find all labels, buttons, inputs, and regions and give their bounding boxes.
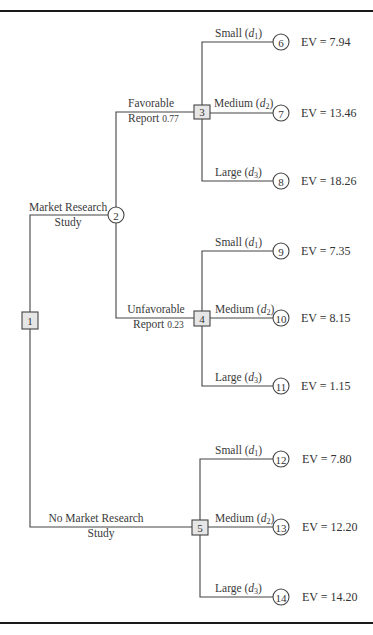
- node-number: 4: [199, 313, 205, 325]
- decision-label-large-11: Large (d3): [215, 371, 262, 385]
- node-number: 12: [276, 454, 287, 466]
- decision-label-small-12: Small (d1): [215, 444, 262, 458]
- chance-node-11: 11: [273, 378, 289, 394]
- edge-5-to-12: [200, 459, 273, 520]
- branch-label-line1: Market Research: [29, 201, 107, 213]
- svg-text:Report 0.23: Report 0.23: [133, 318, 184, 331]
- node-number: 1: [27, 315, 33, 327]
- ev-node-11: EV = 1.15: [301, 379, 351, 393]
- svg-text:Medium (d2): Medium (d2): [215, 512, 274, 526]
- node-number: 6: [278, 37, 284, 49]
- node-number: 9: [278, 246, 284, 258]
- decision-node-1: 1: [22, 312, 38, 329]
- decision-label-medium-10: Medium (d2): [215, 303, 274, 317]
- chance-node-2: 2: [108, 207, 124, 223]
- node-number: 8: [278, 176, 284, 188]
- branch-label-line2: Study: [55, 216, 82, 229]
- report-word: Report: [133, 318, 165, 331]
- ev-node-14: EV = 14.20: [302, 590, 358, 604]
- chance-node-8: 8: [273, 173, 289, 189]
- svg-text:Large (d3): Large (d3): [215, 582, 262, 596]
- branch-label-no-market-research: No Market Research Study: [48, 512, 143, 540]
- decision-label-small-6: Small (d1): [215, 27, 262, 41]
- chance-node-7: 7: [273, 105, 289, 121]
- ev-node-9: EV = 7.35: [301, 244, 351, 258]
- chance-node-9: 9: [273, 243, 289, 259]
- ev-node-12: EV = 7.80: [302, 452, 352, 466]
- node-number: 14: [276, 592, 288, 604]
- node-number: 2: [113, 210, 119, 222]
- node-number: 11: [276, 381, 287, 393]
- branch-label-line2: Study: [88, 527, 115, 540]
- svg-text:Small (d1): Small (d1): [215, 444, 262, 458]
- decision-label-large-8: Large (d3): [215, 166, 262, 180]
- svg-text:Small (d1): Small (d1): [215, 27, 262, 41]
- decision-label-medium-7: Medium (d2): [214, 97, 273, 111]
- chance-node-6: 6: [273, 34, 289, 50]
- svg-text:Small (d1): Small (d1): [215, 236, 262, 250]
- branch-label-unfavorable: Unfavorable Report 0.23: [127, 303, 184, 331]
- probability-value: 0.23: [167, 320, 184, 330]
- chance-node-10: 10: [273, 310, 289, 326]
- node-number: 13: [276, 522, 288, 534]
- edge-2-to-3: [116, 112, 194, 207]
- node-number: 7: [278, 108, 284, 120]
- node-number: 5: [197, 522, 203, 534]
- decision-label-medium-13: Medium (d2): [215, 512, 274, 526]
- svg-text:Medium (d2): Medium (d2): [215, 303, 274, 317]
- edge-1-to-2: [30, 215, 108, 312]
- chance-node-13: 13: [273, 519, 289, 535]
- branch-label-favorable: Favorable Report 0.77: [128, 97, 179, 125]
- chance-node-14: 14: [273, 589, 289, 605]
- branch-label-line1: No Market Research: [48, 512, 143, 524]
- ev-node-6: EV = 7.94: [301, 35, 351, 49]
- branch-label-line1: Unfavorable: [127, 303, 184, 315]
- ev-node-13: EV = 12.20: [302, 520, 358, 534]
- ev-node-7: EV = 13.46: [301, 106, 357, 120]
- svg-text:Medium (d2): Medium (d2): [214, 97, 273, 111]
- svg-text:Large (d3): Large (d3): [215, 371, 262, 385]
- branch-label-line1: Favorable: [128, 97, 174, 109]
- decision-label-large-14: Large (d3): [215, 582, 262, 596]
- node-number: 3: [199, 106, 205, 118]
- ev-node-10: EV = 8.15: [301, 311, 351, 325]
- edge-4-to-9: [202, 251, 273, 311]
- ev-node-8: EV = 18.26: [301, 174, 357, 188]
- svg-text:Report 0.77: Report 0.77: [128, 112, 179, 125]
- chance-node-12: 12: [273, 451, 289, 467]
- probability-value: 0.77: [162, 114, 179, 124]
- report-word: Report: [128, 112, 160, 125]
- decision-label-small-9: Small (d1): [215, 236, 262, 250]
- decision-node-4: 4: [194, 311, 210, 326]
- svg-text:Large (d3): Large (d3): [215, 166, 262, 180]
- edge-3-to-6: [202, 42, 273, 105]
- decision-node-5: 5: [192, 520, 208, 535]
- decision-node-3: 3: [194, 105, 210, 119]
- decision-tree-diagram: 1 3 4 5 2 6 7 8 9 10 11 12: [0, 0, 373, 635]
- node-number: 10: [276, 313, 288, 325]
- edge-1-to-5: [30, 328, 192, 527]
